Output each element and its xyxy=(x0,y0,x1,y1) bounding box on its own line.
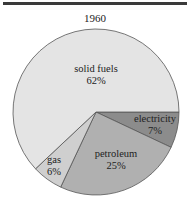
label-petroleum-pct: 25% xyxy=(86,160,146,172)
label-petroleum-name: petroleum xyxy=(86,148,146,160)
label-gas-pct: 6% xyxy=(42,166,66,178)
label-gas-name: gas xyxy=(42,154,66,166)
label-solid-fuels-pct: 62% xyxy=(56,75,136,87)
label-electricity-pct: 7% xyxy=(130,125,180,137)
label-petroleum: petroleum 25% xyxy=(86,148,146,172)
label-gas: gas 6% xyxy=(42,154,66,178)
label-electricity-name: electricity xyxy=(130,113,180,125)
label-solid-fuels: solid fuels 62% xyxy=(56,63,136,87)
pie-chart xyxy=(0,0,190,214)
label-electricity: electricity 7% xyxy=(130,113,180,137)
label-solid-fuels-name: solid fuels xyxy=(56,63,136,75)
